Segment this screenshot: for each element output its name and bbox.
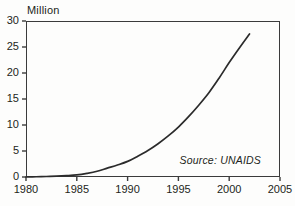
source-annotation: Source: UNAIDS xyxy=(179,154,261,166)
y-axis-tick-label: 15 xyxy=(0,93,19,104)
y-axis-tick-label: 20 xyxy=(0,67,19,78)
y-axis-tick-label: 5 xyxy=(0,145,19,156)
y-axis-tick-label: 10 xyxy=(0,119,19,130)
x-axis-tick-marks xyxy=(26,177,280,181)
chart-canvas xyxy=(0,0,295,206)
y-axis-tick-marks xyxy=(22,21,26,177)
x-axis-tick-label: 1995 xyxy=(158,184,198,195)
chart-screenshot: Million 302520151050 1980198519901995200… xyxy=(0,0,295,206)
x-axis-tick-label: 1985 xyxy=(57,184,97,195)
x-axis-tick-label: 1980 xyxy=(6,184,46,195)
y-axis-tick-label: 25 xyxy=(0,41,19,52)
x-axis-tick-label: 1990 xyxy=(108,184,148,195)
y-axis-tick-label: 0 xyxy=(0,171,19,182)
y-axis-tick-label: 30 xyxy=(0,15,19,26)
x-axis-tick-label: 2000 xyxy=(209,184,249,195)
x-axis-tick-label: 2005 xyxy=(260,184,295,195)
